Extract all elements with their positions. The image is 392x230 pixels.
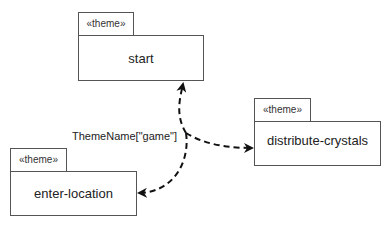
start-stereotype: «theme» [87,18,126,29]
enter-location-stereotype-tab: «theme» [10,148,67,172]
edge-to-distribute-crystals [186,133,252,148]
edge-label: ThemeName["game"] [72,130,177,142]
enter-location-node[interactable]: enter-location [10,171,137,216]
enter-location-name: enter-location [34,186,113,201]
enter-location-stereotype: «theme» [19,154,58,165]
start-node[interactable]: start [78,35,204,81]
distribute-crystals-node[interactable]: distribute-crystals [254,121,381,166]
start-name: start [128,51,153,66]
edge-to-enter-location [139,133,187,193]
start-stereotype-tab: «theme» [78,12,134,36]
edge-to-start [179,84,186,133]
distribute-crystals-stereotype: «theme» [263,104,302,115]
distribute-crystals-stereotype-tab: «theme» [254,98,311,122]
distribute-crystals-name: distribute-crystals [267,133,368,148]
